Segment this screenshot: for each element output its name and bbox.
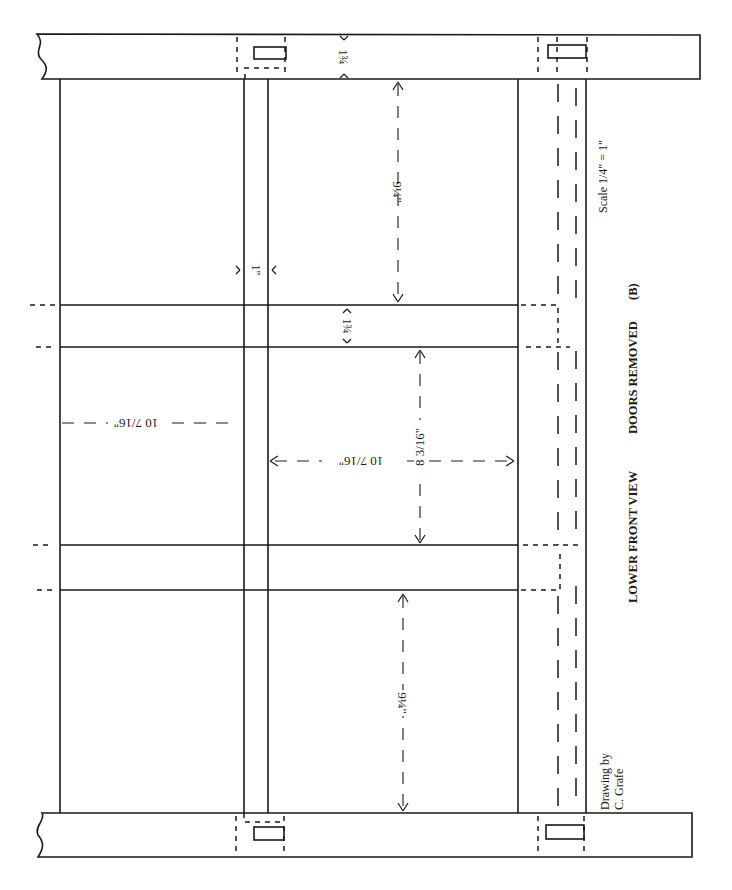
drawing-subtitle: DOORS REMOVED — [626, 321, 640, 434]
dim-left-width: 10 7/16" — [114, 416, 159, 431]
frame — [60, 79, 586, 813]
drawing-label: (B) — [626, 283, 640, 300]
dim-shelf: 1¾ — [340, 319, 354, 334]
credit-line-1: Drawing by — [598, 753, 612, 810]
dim-top-rail: 1¾ — [336, 50, 350, 65]
scale-note: Scale 1/4" = 1" — [596, 140, 610, 213]
dim-middle-width: 10 7/16" — [339, 454, 384, 469]
top-rail — [37, 34, 700, 79]
credit-line-2: C. Grafe — [612, 769, 626, 810]
hidden-lines — [558, 84, 576, 808]
drawing-title: LOWER FRONT VIEW — [626, 470, 640, 603]
dim-lower-opening: 9¼" — [395, 692, 410, 714]
technical-drawing: 1¾ 9¼" 1" 1¾ 8 3/16" 10 7/16" 10 7/16" 9… — [0, 0, 732, 890]
shelves — [30, 305, 578, 590]
dim-middle-height: 8 3/16" — [412, 428, 427, 466]
dim-upper-opening: 9¼" — [390, 181, 405, 203]
bottom-rail — [37, 813, 692, 857]
dim-stile: 1" — [249, 265, 263, 276]
